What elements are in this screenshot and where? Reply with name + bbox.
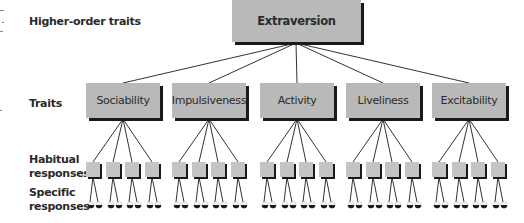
trait-box-activity: Activity [260, 83, 334, 118]
habitual-response-box [192, 162, 206, 177]
habitual-response-box [471, 162, 485, 177]
specific-response-icon [501, 202, 507, 208]
higher-order-trait-label: Extraversion [257, 14, 335, 28]
specific-response-icon [213, 202, 219, 208]
specific-response-icon [407, 202, 413, 208]
habitual-response-box [432, 162, 446, 177]
habitual-response-box [346, 162, 360, 177]
habitual-response-box [145, 162, 159, 177]
specific-response-icon [434, 202, 440, 208]
specific-response-icon [194, 202, 200, 208]
row-label-habitual-line1: Habitual [29, 153, 90, 167]
specific-response-icon [481, 202, 487, 208]
habitual-response-box [491, 162, 505, 177]
trait-box-impulsiveness: Impulsiveness [172, 83, 246, 118]
specific-response-icon [321, 202, 327, 208]
row-label-specific-line2: responses [29, 200, 90, 214]
specific-response-icon [182, 202, 188, 208]
trait-label: Activity [278, 94, 317, 107]
specific-response-icon [348, 202, 354, 208]
specific-response-icon [368, 202, 374, 208]
trait-box-sociability: Sociability [86, 83, 160, 118]
habitual-response-box [86, 162, 100, 177]
specific-response-icon [356, 202, 362, 208]
habitual-response-box [452, 162, 466, 177]
specific-response-icon [493, 202, 499, 208]
specific-response-icon [442, 202, 448, 208]
specific-response-icon [387, 202, 393, 208]
row-label-traits: Traits [29, 97, 62, 111]
specific-response-icon [221, 202, 227, 208]
specific-response-icon [454, 202, 460, 208]
row-label-higher-order: Higher-order traits [29, 15, 141, 29]
habitual-response-box [211, 162, 225, 177]
specific-response-icon [415, 202, 421, 208]
specific-response-icon [309, 202, 315, 208]
specific-response-icon [395, 202, 401, 208]
trait-label: Impulsiveness [172, 94, 246, 107]
trait-box-excitability: Excitability [432, 83, 506, 118]
specific-response-icon [329, 202, 335, 208]
specific-response-icon [127, 202, 133, 208]
row-label-habitual-line2: responses [29, 167, 90, 181]
specific-response-icon [270, 202, 276, 208]
habitual-response-box [299, 162, 313, 177]
specific-response-icon [108, 202, 114, 208]
specific-response-icon [262, 202, 268, 208]
specific-response-icon [473, 202, 479, 208]
habitual-response-box [260, 162, 274, 177]
specific-response-icon [116, 202, 122, 208]
higher-order-trait-box: Extraversion [232, 0, 361, 42]
habitual-response-box [405, 162, 419, 177]
habitual-response-box [172, 162, 186, 177]
specific-response-icon [174, 202, 180, 208]
habitual-response-box [366, 162, 380, 177]
specific-response-icon [301, 202, 307, 208]
specific-response-icon [155, 202, 161, 208]
specific-response-icon [135, 202, 141, 208]
specific-response-icon [147, 202, 153, 208]
row-label-specific: Specific responses [29, 186, 90, 214]
specific-response-icon [96, 202, 102, 208]
row-label-habitual: Habitual responses [29, 153, 90, 181]
habitual-response-box [125, 162, 139, 177]
specific-response-icon [290, 202, 296, 208]
trait-label: Excitability [441, 94, 498, 107]
specific-response-icon [241, 202, 247, 208]
trait-box-liveliness: Liveliness [346, 83, 420, 118]
row-label-specific-line1: Specific [29, 186, 90, 200]
trait-label: Sociability [96, 94, 149, 107]
specific-response-icon [462, 202, 468, 208]
habitual-response-box [106, 162, 120, 177]
specific-response-icon [202, 202, 208, 208]
habitual-response-box [280, 162, 294, 177]
habitual-response-box [319, 162, 333, 177]
habitual-response-box [385, 162, 399, 177]
trait-label: Liveliness [358, 94, 409, 107]
specific-response-icon [233, 202, 239, 208]
habitual-response-box [231, 162, 245, 177]
specific-response-icon [376, 202, 382, 208]
specific-response-icon [282, 202, 288, 208]
